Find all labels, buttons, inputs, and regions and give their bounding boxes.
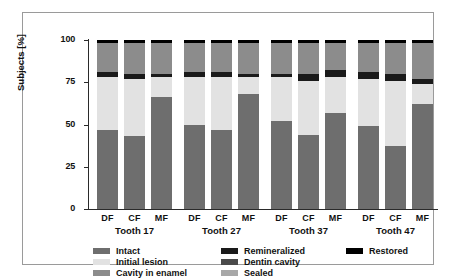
x-tick-label: MF — [321, 213, 351, 223]
x-tick-label: CF — [381, 213, 411, 223]
bar-segment-intact — [238, 94, 259, 209]
bar-tooth-47-df[interactable] — [358, 40, 379, 209]
bar-tooth-47-mf[interactable] — [412, 40, 433, 209]
bar-segment-cavity-in-enamel — [325, 43, 346, 70]
bar-tooth-37-cf[interactable] — [298, 40, 319, 209]
x-tick-label: CF — [120, 213, 150, 223]
y-tick-label: 100 — [41, 34, 75, 44]
bar-segment-remineralized — [385, 74, 406, 81]
y-tick-label: 0 — [41, 203, 75, 213]
x-tick-label: MF — [234, 213, 264, 223]
bar-tooth-27-df[interactable] — [184, 40, 205, 209]
bar-tooth-27-mf[interactable] — [238, 40, 259, 209]
legend-swatch-restored — [346, 248, 363, 254]
x-tick-label: DF — [180, 213, 210, 223]
legend-swatch-dentin-cavity — [221, 259, 238, 265]
legend-swatch-intact — [93, 248, 110, 254]
bar-tooth-47-cf[interactable] — [385, 40, 406, 209]
bar-segment-cavity-in-enamel — [151, 43, 172, 73]
x-tick-label: DF — [267, 213, 297, 223]
bar-segment-cavity-in-enamel — [412, 43, 433, 78]
bar-segment-cavity-in-enamel — [298, 43, 319, 73]
legend-column: RemineralizedDentin cavitySealed — [221, 245, 305, 278]
y-tick-label: 50 — [41, 119, 75, 129]
bar-segment-intact — [211, 130, 232, 209]
legend-swatch-cavity-in-enamel — [93, 270, 110, 276]
legend-label: Dentin cavity — [244, 257, 300, 267]
legend-column: Restored — [346, 245, 408, 256]
x-tick-label: CF — [294, 213, 324, 223]
legend-swatch-initial-lesion — [93, 259, 110, 265]
chart-legend: IntactInitial lesionCavity in enamelRemi… — [93, 245, 443, 278]
bar-segment-cavity-in-enamel — [97, 43, 118, 72]
x-tick-label: DF — [93, 213, 123, 223]
figure-frame: Subjects [%] 1007550250 DFCFMFDFCFMFDFCF… — [22, 12, 434, 265]
legend-column: IntactInitial lesionCavity in enamel — [93, 245, 187, 278]
plot-area — [89, 40, 437, 209]
legend-swatch-remineralized — [221, 248, 238, 254]
legend-label: Remineralized — [244, 246, 305, 256]
bar-tooth-17-df[interactable] — [97, 40, 118, 209]
bar-tooth-37-df[interactable] — [271, 40, 292, 209]
legend-item[interactable]: Remineralized — [221, 245, 305, 256]
legend-item[interactable]: Initial lesion — [93, 256, 187, 267]
bar-segment-initial-lesion — [298, 81, 319, 135]
bar-segment-initial-lesion — [271, 77, 292, 121]
bar-segment-intact — [271, 121, 292, 209]
bar-tooth-17-cf[interactable] — [124, 40, 145, 209]
bar-segment-cavity-in-enamel — [271, 43, 292, 73]
bar-segment-cavity-in-enamel — [124, 43, 145, 73]
legend-item[interactable]: Dentin cavity — [221, 256, 305, 267]
bar-segment-initial-lesion — [151, 77, 172, 97]
legend-item[interactable]: Cavity in enamel — [93, 267, 187, 278]
y-axis-label: Subjects [%] — [15, 0, 26, 91]
x-tick-label: DF — [354, 213, 384, 223]
x-tick-label: MF — [408, 213, 438, 223]
bar-segment-intact — [124, 136, 145, 209]
x-axis-line — [88, 209, 438, 210]
legend-label: Restored — [369, 246, 408, 256]
bar-segment-cavity-in-enamel — [184, 43, 205, 72]
legend-item[interactable]: Restored — [346, 245, 408, 256]
bar-segment-intact — [298, 135, 319, 209]
y-tick-label: 25 — [41, 161, 75, 171]
x-tick-label: MF — [147, 213, 177, 223]
legend-label: Initial lesion — [116, 257, 168, 267]
bar-segment-intact — [412, 104, 433, 209]
legend-label: Sealed — [244, 268, 273, 278]
bar-segment-initial-lesion — [184, 77, 205, 124]
bar-segment-cavity-in-enamel — [385, 43, 406, 73]
bar-segment-initial-lesion — [325, 77, 346, 112]
bar-segment-intact — [358, 126, 379, 209]
x-group-label: Tooth 47 — [336, 225, 456, 236]
bar-segment-cavity-in-enamel — [358, 43, 379, 72]
legend-label: Intact — [116, 246, 140, 256]
legend-item[interactable]: Intact — [93, 245, 187, 256]
bar-segment-initial-lesion — [238, 77, 259, 94]
bar-tooth-17-mf[interactable] — [151, 40, 172, 209]
bar-segment-remineralized — [358, 72, 379, 79]
bar-segment-initial-lesion — [385, 81, 406, 147]
y-tick-label: 75 — [41, 76, 75, 86]
bar-segment-intact — [151, 97, 172, 209]
bar-segment-remineralized — [298, 74, 319, 81]
bar-tooth-37-mf[interactable] — [325, 40, 346, 209]
bar-segment-intact — [325, 113, 346, 209]
bar-segment-initial-lesion — [412, 84, 433, 104]
chart-screenshot: Subjects [%] 1007550250 DFCFMFDFCFMFDFCF… — [0, 0, 457, 278]
bar-segment-intact — [184, 125, 205, 210]
x-tick-label: CF — [207, 213, 237, 223]
bar-segment-initial-lesion — [124, 79, 145, 136]
y-tick-mark — [84, 209, 89, 210]
bar-segment-cavity-in-enamel — [238, 43, 259, 73]
legend-item[interactable]: Sealed — [221, 267, 305, 278]
bar-segment-initial-lesion — [211, 77, 232, 129]
bar-segment-intact — [385, 146, 406, 209]
bar-segment-initial-lesion — [358, 79, 379, 126]
bar-tooth-27-cf[interactable] — [211, 40, 232, 209]
legend-label: Cavity in enamel — [116, 268, 187, 278]
bar-segment-initial-lesion — [97, 77, 118, 129]
bar-segment-intact — [97, 130, 118, 209]
legend-swatch-sealed — [221, 270, 238, 276]
bar-segment-remineralized — [325, 70, 346, 77]
